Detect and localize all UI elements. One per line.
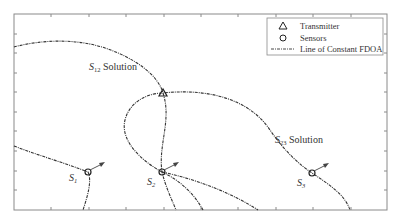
- svg-text:S2: S2: [147, 176, 156, 188]
- legend-label-transmitter: Transmitter: [300, 21, 340, 31]
- sensor-subscript: 1: [74, 177, 77, 184]
- legend-label-sensors: Sensors: [300, 33, 326, 43]
- y-ticks: [14, 34, 387, 190]
- s23-fdoa-curve: [124, 92, 350, 210]
- s12-solution-label: S12 Solution: [89, 61, 137, 73]
- legend-label-fdoa: Line of Constant FDOA: [300, 44, 383, 54]
- arrowhead-icon: [173, 162, 179, 167]
- s2-fdoa-curve-lower: [162, 172, 203, 210]
- s1-fdoa-curve: [14, 146, 90, 210]
- s23-solution-label: S23 Solution: [275, 134, 323, 146]
- arrowhead-icon: [323, 163, 329, 168]
- sensor-s3: S3: [297, 163, 329, 189]
- s2-fdoa-curve: [162, 172, 258, 210]
- arrowhead-icon: [99, 162, 105, 167]
- sensor-s1: S1: [69, 162, 105, 184]
- fdoa-diagram: S1 S2 S3 S12 Solution S23 Solution Trans…: [0, 0, 401, 221]
- legend: Transmitter Sensors Line of Constant FDO…: [267, 18, 383, 55]
- sensor-subscript: 3: [301, 182, 306, 189]
- sensor-subscript: 2: [152, 181, 156, 188]
- svg-text:S3: S3: [297, 177, 306, 189]
- svg-text:S1: S1: [69, 172, 77, 184]
